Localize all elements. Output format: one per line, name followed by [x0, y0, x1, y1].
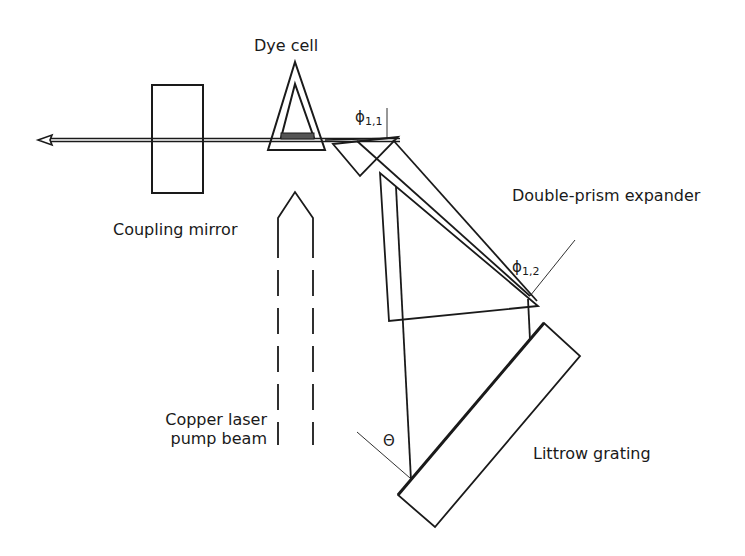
- dye-cell: [268, 62, 325, 150]
- dye-cell-label: Dye cell: [254, 36, 318, 55]
- pump-beam-label-line2: pump beam: [155, 429, 267, 448]
- arrowhead-icon: [38, 135, 52, 145]
- pump-beam-label: Copper laser pump beam: [155, 410, 267, 448]
- littrow-grating: [398, 323, 580, 527]
- beam-to-grating-left: [396, 187, 411, 480]
- beam-to-grating-right: [528, 299, 530, 340]
- phi-1-2-label: ϕ1,2: [512, 258, 539, 278]
- phi-subscript: 1,1: [365, 115, 383, 128]
- phi-symbol: ϕ: [512, 258, 522, 276]
- phi-subscript: 1,2: [522, 265, 540, 278]
- diagram-canvas: [0, 0, 745, 556]
- littrow-grating-label: Littrow grating: [533, 444, 651, 463]
- phi-symbol: ϕ: [355, 108, 365, 126]
- double-prism-expander-label: Double-prism expander: [512, 186, 700, 205]
- phi-1-1-label: ϕ1,1: [355, 108, 382, 128]
- pump-beam-label-line1: Copper laser: [155, 410, 267, 429]
- coupling-mirror-label: Coupling mirror: [113, 220, 237, 239]
- laser-cavity-diagram: Dye cell ϕ1,1 Double-prism expander Coup…: [0, 0, 745, 556]
- theta-label: Θ: [383, 432, 395, 450]
- pump-beam: [278, 192, 313, 445]
